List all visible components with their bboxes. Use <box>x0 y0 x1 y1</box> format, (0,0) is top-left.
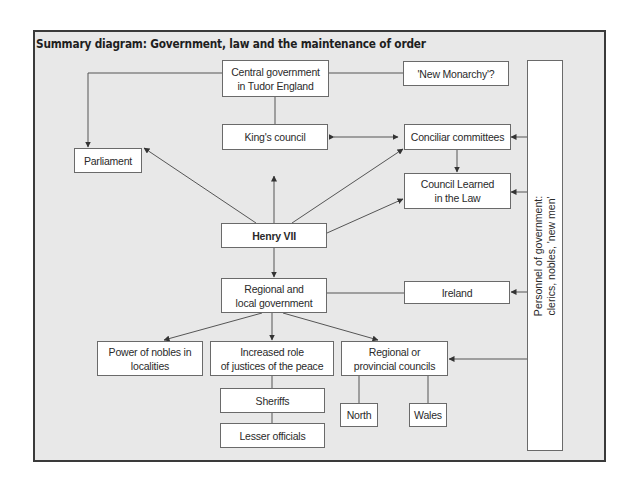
node-personnel-text: Personnel of government: clerics, nobles… <box>532 195 558 315</box>
node-central-government-line2: in Tudor England <box>237 79 313 93</box>
node-conciliar-committees: Conciliar committees <box>404 124 511 150</box>
node-new-monarchy-label: 'New Monarchy'? <box>418 67 495 81</box>
node-kings-council: King's council <box>222 124 328 150</box>
node-henry-vii: Henry VII <box>221 223 327 248</box>
node-council-learned-line2: in the Law <box>435 191 481 205</box>
node-wales: Wales <box>409 403 447 427</box>
node-ireland: Ireland <box>404 281 510 304</box>
node-parliament-label: Parliament <box>84 154 132 168</box>
node-parliament: Parliament <box>74 148 142 173</box>
node-regional-councils-line1: Regional or <box>369 345 421 359</box>
node-sheriffs: Sheriffs <box>220 388 325 413</box>
node-justices-line1: Increased role <box>240 345 304 359</box>
node-north-label: North <box>347 408 372 422</box>
node-lesser-officials: Lesser officials <box>220 423 325 448</box>
node-sheriffs-label: Sheriffs <box>256 394 290 408</box>
node-regional-councils-line2: provincial councils <box>354 359 435 373</box>
node-power-of-nobles-line2: localities <box>131 359 169 373</box>
node-central-government: Central government in Tudor England <box>222 60 329 97</box>
node-council-learned-line1: Council Learned <box>421 177 494 191</box>
node-regional-councils: Regional or provincial councils <box>341 341 448 376</box>
node-power-of-nobles: Power of nobles in localities <box>97 341 203 376</box>
node-power-of-nobles-line1: Power of nobles in <box>109 345 192 359</box>
node-north: North <box>340 403 378 427</box>
node-personnel-line2: clerics, nobles, 'new men' <box>545 195 558 315</box>
node-kings-council-label: King's council <box>244 130 305 144</box>
node-regional-local-government: Regional and local government <box>221 278 327 313</box>
node-council-learned: Council Learned in the Law <box>404 173 511 209</box>
node-regional-local-line1: Regional and <box>244 282 303 296</box>
node-ireland-label: Ireland <box>442 286 473 300</box>
node-conciliar-committees-label: Conciliar committees <box>411 130 504 144</box>
node-personnel-line1: Personnel of government: <box>532 195 545 315</box>
node-lesser-officials-label: Lesser officials <box>239 429 305 443</box>
node-henry-vii-label: Henry VII <box>252 229 296 243</box>
node-central-government-line1: Central government <box>231 65 320 79</box>
node-new-monarchy: 'New Monarchy'? <box>403 61 509 86</box>
node-wales-label: Wales <box>414 408 442 422</box>
node-regional-local-line2: local government <box>236 296 313 310</box>
node-justices-line2: of justices of the peace <box>221 359 324 373</box>
node-personnel-of-government: Personnel of government: clerics, nobles… <box>527 60 563 451</box>
node-justices-of-peace: Increased role of justices of the peace <box>210 341 334 376</box>
